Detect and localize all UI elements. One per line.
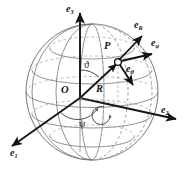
axis-label-e3: e3 xyxy=(66,4,74,14)
latitude-lines xyxy=(26,37,158,147)
unit-vector-label-ephi: eφ xyxy=(151,38,159,48)
spherical-coordinate-diagram xyxy=(0,0,185,182)
point-label-P: P xyxy=(104,41,110,52)
origin-label-O: O xyxy=(61,85,69,96)
axis-label-e2: e2 xyxy=(161,105,169,115)
angle-label-psi: ψ xyxy=(79,119,85,129)
sphere-outline xyxy=(26,24,158,160)
azimuth-rotation-arrow xyxy=(92,106,110,124)
angle-theta-arc xyxy=(80,70,99,77)
unit-vector-label-etheta: eϑ xyxy=(126,64,134,74)
unit-vector-label-eR: eR xyxy=(134,20,143,30)
angle-label-theta: ϑ xyxy=(84,60,89,70)
axis-label-e1: e1 xyxy=(10,148,18,158)
sphere-wireframe xyxy=(26,24,158,160)
radius-label-R: R xyxy=(96,84,103,95)
